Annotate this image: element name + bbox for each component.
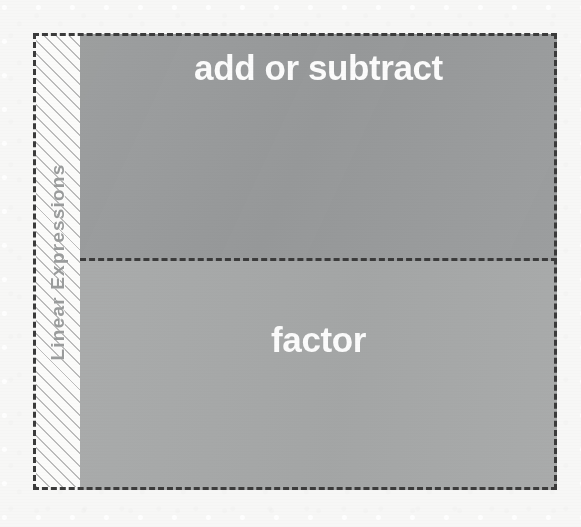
block-add-or-subtract[interactable]: add or subtract [80, 34, 557, 261]
block-label-factor: factor [271, 322, 366, 357]
block-factor[interactable]: factor [80, 261, 557, 490]
axis-label-linear-expressions: Linear Expressions [47, 163, 69, 360]
axis-label-container: Linear Expressions [36, 36, 80, 487]
diagram-canvas: add or subtract factor Linear Expression… [0, 0, 581, 527]
block-label-add-or-subtract: add or subtract [194, 50, 443, 85]
